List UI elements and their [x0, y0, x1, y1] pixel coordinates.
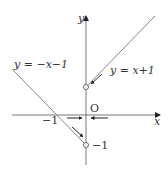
- line-y-equals-neg-x-minus-1: [12, 69, 85, 144]
- y-axis-label: y: [77, 12, 85, 25]
- x-axis-label: x: [154, 115, 161, 128]
- arrow-approach-right-limit: [91, 74, 102, 84]
- curve-label-right: y = x+1: [109, 64, 155, 77]
- x-tick-neg-one: −1: [42, 114, 58, 127]
- origin-label: O: [90, 102, 99, 115]
- curve-label-left: y = −x−1: [13, 58, 68, 71]
- y-tick-neg-one: −1: [92, 139, 108, 152]
- piecewise-function-graph: y x O −1 −1 y = −x−1 y = x+1: [0, 0, 168, 181]
- open-point-0-1: [84, 85, 89, 90]
- open-point-0-neg1: [84, 143, 89, 148]
